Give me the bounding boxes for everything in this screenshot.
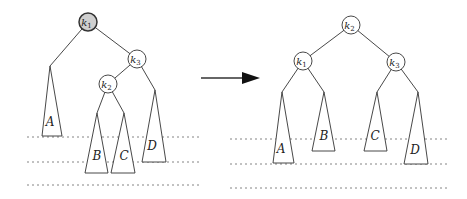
subtree-label: C	[119, 149, 128, 163]
subtree-A: A	[42, 66, 62, 136]
subtree-A: A	[273, 92, 294, 163]
subtree-label: C	[370, 129, 379, 143]
subtree-label: B	[92, 149, 102, 163]
subtree-B: B	[312, 92, 335, 151]
node-k1: k1	[294, 52, 312, 70]
subtree-D: D	[404, 92, 428, 164]
subtree-triangle	[111, 113, 135, 173]
node-k1: k1	[79, 13, 97, 31]
subtree-label: A	[45, 115, 55, 129]
subtree-D: D	[142, 90, 166, 162]
node-k3: k3	[387, 53, 405, 71]
subtree-B: B	[85, 113, 108, 173]
diagram-svg: ABCDABCD k1k3k2k2k1k3	[0, 0, 467, 199]
transformation-arrow-icon	[201, 72, 260, 84]
subtree-label: D	[146, 139, 157, 153]
subtree-label: B	[319, 129, 329, 143]
subtree-C: C	[364, 92, 387, 151]
subtree-C: C	[111, 113, 135, 173]
tree-edges	[50, 22, 418, 113]
node-k2: k2	[342, 16, 360, 34]
rotation-diagram: ABCDABCD k1k3k2k2k1k3	[0, 0, 467, 199]
node-k3: k3	[128, 50, 146, 68]
node-k2: k2	[99, 75, 117, 93]
subtree-triangle	[85, 113, 108, 173]
subtree-label: A	[276, 142, 286, 156]
subtree-label: D	[409, 143, 420, 157]
